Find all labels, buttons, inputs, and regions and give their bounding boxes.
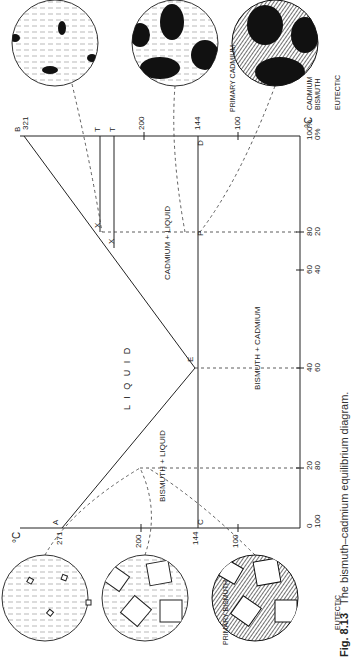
comp-bi-40: 40 bbox=[313, 265, 322, 274]
region-liquid: L I Q U I D bbox=[122, 346, 132, 410]
tick-144-right: 144 bbox=[193, 116, 202, 130]
left-axis-unit: °C bbox=[11, 532, 22, 543]
tick-321: 321 bbox=[21, 116, 30, 130]
figure-number: Fig. 8.13 bbox=[338, 613, 350, 657]
point-a: A bbox=[51, 519, 60, 525]
figure-caption-text: The bismuth–cadmium equilibrium diagram. bbox=[338, 392, 350, 605]
micrograph-liquid-bismuth-nuclei bbox=[2, 555, 91, 641]
point-d: D bbox=[196, 140, 205, 146]
point-b: B bbox=[13, 127, 22, 132]
comp-bi-0: 0% bbox=[313, 128, 322, 140]
comp-cadmium-label: CADMIUM bbox=[306, 76, 313, 110]
tick-200: 200 bbox=[134, 534, 143, 548]
comp-bi-80: 80 bbox=[313, 461, 322, 470]
region-bismuth-cadmium: BISMUTH + CADMIUM bbox=[253, 306, 262, 390]
comp-bismuth-label: BISMUTH bbox=[314, 79, 321, 111]
tick-100: 100 bbox=[231, 534, 240, 548]
label-primary-cadmium: PRIMARY CADMIUM bbox=[229, 45, 236, 112]
region-cadmium-liquid: CADMIUM + LIQUID bbox=[163, 206, 172, 280]
tick-100-right: 100 bbox=[233, 116, 242, 130]
comp-bi-60: 60 bbox=[313, 363, 322, 372]
micrograph-liquid-cadmium-nuclei bbox=[10, 0, 98, 86]
figure-caption: Fig. 8.13The bismuth–cadmium equilibrium… bbox=[338, 392, 350, 657]
tick-200-right: 200 bbox=[137, 116, 146, 130]
micrograph-primary-bismuth bbox=[102, 555, 188, 641]
point-x: X bbox=[93, 222, 102, 228]
tick-271: 271 bbox=[55, 531, 64, 545]
point-e: E bbox=[186, 357, 195, 362]
point-t1: T bbox=[108, 127, 117, 132]
point-t: T bbox=[93, 127, 102, 132]
tick-144: 144 bbox=[191, 531, 200, 545]
label-primary-bismuth: PRIMARY BISMUTH bbox=[222, 580, 229, 645]
region-bismuth-liquid: BISMUTH + LIQUID bbox=[158, 430, 167, 502]
micrograph-cadmium-eutectic bbox=[232, 0, 319, 87]
phase-diagram: °C 271 200 144 100 °C 321 200 144 100 0 … bbox=[0, 0, 363, 657]
comp-bi-100: 100 bbox=[313, 514, 322, 528]
label-eutectic-cadmium: EUTECTIC bbox=[334, 75, 341, 110]
comp-bi-20: 20 bbox=[313, 227, 322, 236]
point-c: C bbox=[196, 519, 205, 525]
point-x1: X bbox=[107, 238, 116, 244]
point-p: P bbox=[196, 231, 205, 236]
micrograph-primary-cadmium bbox=[130, 0, 219, 86]
